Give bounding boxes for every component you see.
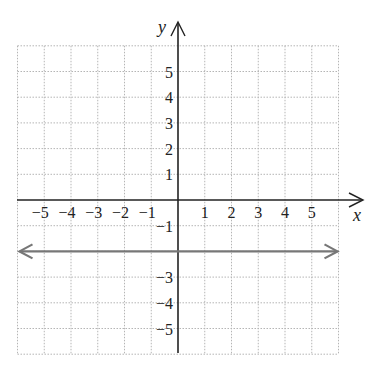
x-tick-label: −5: [32, 204, 49, 221]
x-tick-label: 5: [308, 204, 316, 221]
coordinate-plane: x y −5−4−3−2−112345 54321−1−3−4−5: [0, 0, 380, 369]
y-tick-label: −1: [156, 218, 173, 235]
x-tick-label: 1: [201, 204, 209, 221]
y-tick-label: 2: [165, 141, 173, 158]
x-axis-label: x: [352, 205, 361, 225]
y-tick-label: 3: [165, 115, 173, 132]
x-tick-labels: −5−4−3−2−112345: [32, 204, 316, 221]
x-tick-label: −4: [58, 204, 75, 221]
x-tick-label: 3: [254, 204, 262, 221]
x-tick-label: −2: [112, 204, 129, 221]
x-tick-label: 4: [281, 204, 289, 221]
x-tick-label: −3: [85, 204, 102, 221]
y-axis-label: y: [156, 17, 166, 37]
y-tick-label: 5: [165, 64, 173, 81]
y-tick-label: 1: [165, 166, 173, 183]
x-tick-label: 2: [228, 204, 236, 221]
y-tick-label: −4: [156, 295, 173, 312]
x-tick-label: −1: [139, 204, 156, 221]
y-tick-label: −5: [156, 321, 173, 338]
y-tick-label: −3: [156, 269, 173, 286]
y-tick-label: 4: [165, 89, 173, 106]
